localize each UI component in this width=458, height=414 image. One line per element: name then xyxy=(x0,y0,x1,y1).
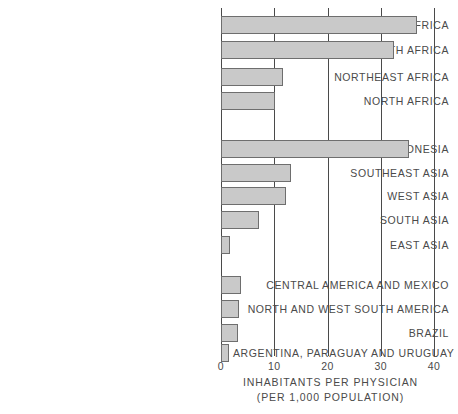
bar xyxy=(221,68,283,86)
bar-row: BRAZIL xyxy=(0,324,449,342)
bar xyxy=(221,16,417,34)
tick-label-0: 0 xyxy=(206,360,236,372)
bar xyxy=(221,236,230,254)
category-label: BRAZIL xyxy=(233,324,449,342)
bar xyxy=(221,324,238,342)
bar-row: EAST ASIA xyxy=(0,236,449,254)
bar-row: WEST ASIA xyxy=(0,187,449,205)
tick-label-10: 10 xyxy=(259,360,289,372)
bar-row: NORTH AFRICA xyxy=(0,92,449,110)
bar xyxy=(221,276,241,294)
bar-row: EAST AND SOUTH AFRICA xyxy=(0,41,449,59)
category-label: EAST ASIA xyxy=(233,236,449,254)
bar-row: SOUTH ASIA xyxy=(0,211,449,229)
x-axis-title: INHABITANTS PER PHYSICIAN xyxy=(0,376,458,388)
x-axis-subtitle: (PER 1,000 POPULATION) xyxy=(0,391,458,403)
bar xyxy=(221,41,394,59)
bar xyxy=(221,187,286,205)
bar xyxy=(221,140,409,158)
bar xyxy=(221,92,275,110)
bar xyxy=(221,300,239,318)
tick-label-30: 30 xyxy=(366,360,396,372)
bar-row: NORTHEAST AFRICA xyxy=(0,68,449,86)
category-label: CENTRAL AMERICA AND MEXICO xyxy=(233,276,449,294)
tick-label-20: 20 xyxy=(313,360,343,372)
category-label: NORTH AND WEST SOUTH AMERICA xyxy=(233,300,449,318)
category-label: SOUTH ASIA xyxy=(233,211,449,229)
bar-row: SOUTHEAST ASIA xyxy=(0,164,449,182)
bar-row: CENTRAL AMERICA AND MEXICO xyxy=(0,276,449,294)
tick-label-40: 40 xyxy=(419,360,449,372)
bar-row: NORTH AND WEST SOUTH AMERICA xyxy=(0,300,449,318)
bar xyxy=(221,211,259,229)
bar-row: WEST AND CENTRAL AFRICA xyxy=(0,16,449,34)
bar-row: INDONESIA xyxy=(0,140,449,158)
bar xyxy=(221,164,291,182)
